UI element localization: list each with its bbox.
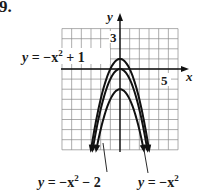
problem-number: 9. [0,0,12,16]
arrowhead-icon [140,144,146,152]
y-tick-3: 3 [110,30,117,45]
leader-line-eq-0 [144,150,148,173]
x-axis-label: x [185,69,193,84]
label-eq-0: y = −x2 [136,173,179,190]
label-eq-minus-2: y = −x2 − 2 [36,173,101,190]
graph-canvas: 9. x y 5 3 y = −x2 + 1 y = −x2 − 2 y = −… [0,0,197,191]
leader-line-eq-minus-2 [103,143,107,172]
y-axis-arrow-icon [117,13,123,21]
arrowhead-icon [94,144,100,152]
x-tick-5: 5 [161,73,168,88]
y-axis-label: y [105,9,113,24]
label-eq-plus-1: y = −x2 + 1 [20,48,85,65]
